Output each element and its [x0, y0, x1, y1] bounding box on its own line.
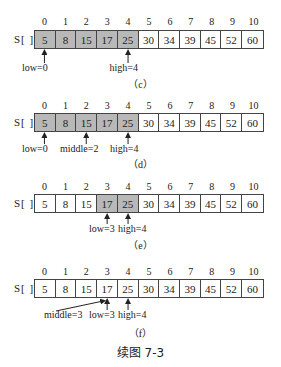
pointer-arrow-icon	[56, 301, 103, 311]
pointer-arrows	[0, 0, 281, 367]
figure-title: 续图 7-3	[0, 343, 281, 360]
